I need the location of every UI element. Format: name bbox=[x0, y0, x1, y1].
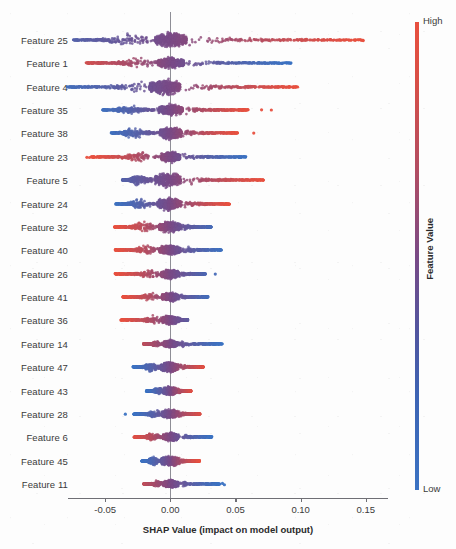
y-axis-label-feature-4: Feature 4 bbox=[26, 81, 68, 92]
beeswarm-points bbox=[68, 30, 388, 50]
y-axis-label-feature-23: Feature 23 bbox=[21, 151, 68, 162]
y-axis-label-feature-14: Feature 14 bbox=[21, 338, 68, 349]
beeswarm-row-feature-28 bbox=[68, 404, 388, 424]
y-axis-label-feature-40: Feature 40 bbox=[21, 245, 68, 256]
beeswarm-points bbox=[68, 334, 388, 354]
outlier-point bbox=[362, 39, 365, 42]
y-axis-label-feature-11: Feature 11 bbox=[22, 479, 68, 490]
x-tick-label-0: -0.05 bbox=[94, 504, 116, 515]
outlier-point bbox=[252, 132, 255, 135]
x-tick-2 bbox=[235, 498, 236, 502]
beeswarm-row-feature-4 bbox=[68, 77, 388, 97]
outlier-point bbox=[124, 412, 127, 415]
x-tick-0 bbox=[105, 498, 106, 502]
x-tick-label-1: 0.00 bbox=[161, 504, 180, 515]
beeswarm-points bbox=[68, 264, 388, 284]
y-axis-label-feature-36: Feature 36 bbox=[21, 315, 68, 326]
colorbar-title: Feature Value bbox=[424, 218, 435, 280]
y-axis-label-feature-25: Feature 25 bbox=[21, 35, 68, 46]
x-axis-line bbox=[68, 498, 388, 499]
beeswarm-row-feature-35 bbox=[68, 100, 388, 120]
y-axis-feature-labels: Feature 25Feature 1Feature 4Feature 35Fe… bbox=[0, 0, 68, 549]
outlier-point bbox=[223, 483, 226, 486]
colorbar-high-label: High bbox=[423, 15, 443, 26]
beeswarm-points bbox=[68, 427, 388, 447]
x-tick-label-2: 0.05 bbox=[226, 504, 245, 515]
beeswarm-row-feature-14 bbox=[68, 334, 388, 354]
outlier-point bbox=[88, 156, 91, 159]
y-axis-label-feature-47: Feature 47 bbox=[21, 362, 68, 373]
beeswarm-points bbox=[68, 53, 388, 73]
beeswarm-row-feature-25 bbox=[68, 30, 388, 50]
beeswarm-points bbox=[68, 357, 388, 377]
colorbar-low-label: Low bbox=[423, 483, 440, 494]
y-axis-label-feature-41: Feature 41 bbox=[21, 292, 68, 303]
x-tick-1 bbox=[170, 498, 171, 502]
outlier-point bbox=[270, 108, 273, 111]
y-axis-label-feature-45: Feature 45 bbox=[21, 455, 68, 466]
y-axis-label-feature-26: Feature 26 bbox=[21, 268, 68, 279]
beeswarm-plot-area bbox=[68, 12, 388, 498]
beeswarm-points bbox=[68, 147, 388, 167]
beeswarm-row-feature-5 bbox=[68, 170, 388, 190]
beeswarm-points bbox=[68, 77, 388, 97]
beeswarm-row-feature-41 bbox=[68, 287, 388, 307]
beeswarm-row-feature-36 bbox=[68, 310, 388, 330]
beeswarm-row-feature-32 bbox=[68, 217, 388, 237]
beeswarm-points bbox=[68, 381, 388, 401]
y-axis-label-feature-5: Feature 5 bbox=[26, 175, 68, 186]
beeswarm-points bbox=[68, 194, 388, 214]
colorbar-gradient bbox=[415, 22, 419, 490]
x-tick-4 bbox=[366, 498, 367, 502]
beeswarm-row-feature-43 bbox=[68, 381, 388, 401]
beeswarm-row-feature-23 bbox=[68, 147, 388, 167]
beeswarm-points bbox=[68, 404, 388, 424]
y-axis-label-feature-1: Feature 1 bbox=[26, 58, 68, 69]
beeswarm-points bbox=[68, 217, 388, 237]
beeswarm-points bbox=[68, 240, 388, 260]
y-axis-label-feature-35: Feature 35 bbox=[21, 105, 68, 116]
beeswarm-row-feature-47 bbox=[68, 357, 388, 377]
outlier-point bbox=[260, 108, 263, 111]
beeswarm-row-feature-38 bbox=[68, 123, 388, 143]
beeswarm-row-feature-26 bbox=[68, 264, 388, 284]
beeswarm-points bbox=[68, 170, 388, 190]
x-tick-label-3: 0.10 bbox=[291, 504, 310, 515]
beeswarm-points bbox=[68, 451, 388, 471]
y-axis-label-feature-24: Feature 24 bbox=[21, 198, 68, 209]
beeswarm-points bbox=[68, 123, 388, 143]
beeswarm-row-feature-6 bbox=[68, 427, 388, 447]
y-axis-label-feature-32: Feature 32 bbox=[21, 221, 68, 232]
beeswarm-row-feature-11 bbox=[68, 474, 388, 494]
y-axis-label-feature-28: Feature 28 bbox=[21, 408, 68, 419]
beeswarm-row-feature-45 bbox=[68, 451, 388, 471]
beeswarm-points bbox=[68, 100, 388, 120]
beeswarm-row-feature-1 bbox=[68, 53, 388, 73]
x-axis-title: SHAP Value (impact on model output) bbox=[68, 524, 388, 535]
y-axis-label-feature-6: Feature 6 bbox=[26, 432, 68, 443]
outlier-point bbox=[214, 272, 217, 275]
beeswarm-points bbox=[68, 310, 388, 330]
y-axis-label-feature-43: Feature 43 bbox=[21, 385, 68, 396]
beeswarm-points bbox=[68, 474, 388, 494]
x-tick-label-4: 0.15 bbox=[357, 504, 376, 515]
beeswarm-row-feature-24 bbox=[68, 194, 388, 214]
shap-summary-figure: Feature 25Feature 1Feature 4Feature 35Fe… bbox=[0, 0, 456, 549]
x-tick-3 bbox=[301, 498, 302, 502]
beeswarm-points bbox=[68, 287, 388, 307]
y-axis-label-feature-38: Feature 38 bbox=[21, 128, 68, 139]
beeswarm-row-feature-40 bbox=[68, 240, 388, 260]
